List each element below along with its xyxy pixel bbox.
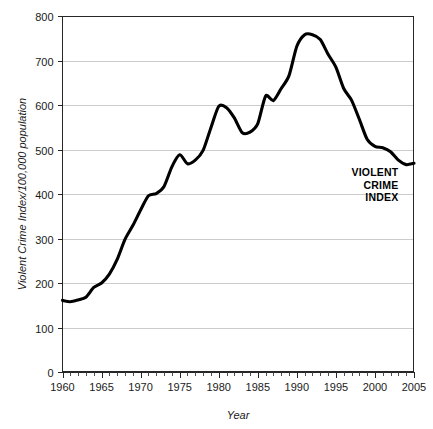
y-tick-label-800: 800: [35, 11, 53, 23]
x-tick-label-1960: 1960: [50, 381, 74, 393]
x-tick-label-1965: 1965: [89, 381, 113, 393]
chart-canvas: 0100200300400500600700800 19601965197019…: [0, 0, 433, 429]
x-tick-label-1980: 1980: [206, 381, 230, 393]
x-tick-label-1985: 1985: [246, 381, 270, 393]
x-tick-label-1995: 1995: [324, 381, 348, 393]
series-label-line-1: CRIME: [364, 179, 399, 191]
y-tick-label-0: 0: [47, 367, 53, 379]
chart-background: [0, 0, 433, 429]
y-tick-label-200: 200: [35, 278, 53, 290]
x-tick-label-2005: 2005: [402, 381, 426, 393]
series-label-line-0: VIOLENT: [351, 166, 398, 178]
x-axis-title: Year: [227, 409, 251, 421]
y-tick-label-500: 500: [35, 145, 53, 157]
y-tick-label-700: 700: [35, 56, 53, 68]
x-tick-label-2000: 2000: [363, 381, 387, 393]
y-axis-title: Violent Crime Index/100,000 population: [16, 98, 28, 290]
x-tick-label-1975: 1975: [167, 381, 191, 393]
y-tick-label-600: 600: [35, 100, 53, 112]
y-tick-label-400: 400: [35, 189, 53, 201]
y-tick-label-100: 100: [35, 323, 53, 335]
x-tick-label-1970: 1970: [128, 381, 152, 393]
violent-crime-index-chart: 0100200300400500600700800 19601965197019…: [0, 0, 433, 429]
x-tick-label-1990: 1990: [285, 381, 309, 393]
series-label-line-2: INDEX: [365, 191, 398, 203]
y-tick-label-300: 300: [35, 234, 53, 246]
